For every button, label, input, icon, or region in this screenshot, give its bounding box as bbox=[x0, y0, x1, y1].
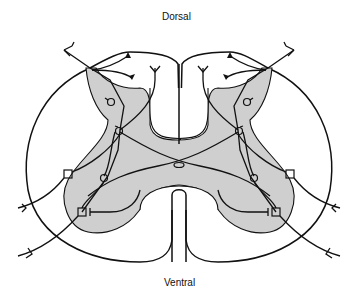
spinal-cord-diagram bbox=[0, 0, 357, 297]
arrow-down-left-icon bbox=[129, 74, 135, 80]
ventral-root-left-1 bbox=[18, 178, 64, 208]
ventral-root-left-2 bbox=[18, 216, 78, 256]
